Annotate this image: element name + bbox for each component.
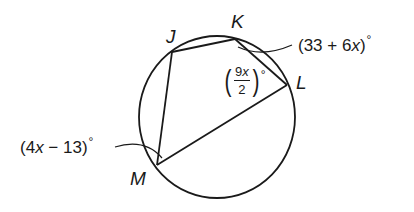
degree-symbol: ° — [367, 33, 372, 47]
angle-m-variable: x — [35, 138, 44, 157]
fraction-numerator: 9x — [234, 64, 250, 81]
degree-symbol: ° — [261, 68, 266, 82]
inscribed-quadrilateral-diagram: J K L M (33 + 6x)° ( 9x 2 ) ° (4x − 13)° — [0, 0, 414, 212]
angle-k-variable: x — [351, 36, 360, 55]
angle-l-label: ( 9x 2 ) ° — [223, 64, 266, 97]
numerator-variable: x — [242, 64, 249, 79]
angle-k-label: (33 + 6x)° — [298, 37, 371, 54]
right-paren: ) — [252, 66, 259, 96]
angle-m-label: (4x − 13)° — [20, 139, 93, 156]
vertex-label-m: M — [130, 169, 146, 188]
left-paren: ( — [225, 66, 232, 96]
degree-symbol: ° — [89, 135, 94, 149]
circle — [139, 36, 295, 198]
vertex-label-j: J — [166, 27, 176, 46]
vertex-label-k: K — [231, 12, 244, 31]
side-lm — [157, 85, 287, 165]
fraction-denominator: 2 — [238, 81, 245, 97]
angle-m-prefix: (4 — [20, 138, 35, 157]
angle-k-prefix: (33 + 6 — [298, 36, 351, 55]
vertex-label-l: L — [296, 73, 307, 92]
fraction: 9x 2 — [234, 64, 250, 97]
diagram-canvas — [0, 0, 414, 212]
angle-m-suffix: − 13) — [44, 138, 88, 157]
side-mj — [157, 52, 172, 165]
leader-line-m — [115, 144, 162, 158]
angle-k-suffix: ) — [360, 36, 366, 55]
